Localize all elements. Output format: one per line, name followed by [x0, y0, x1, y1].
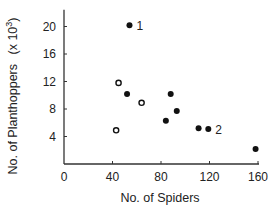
y-axis-title: No. of Planthoppers (x 103) [4, 18, 20, 175]
x-tick-label: 40 [106, 170, 120, 184]
filled-data-point [174, 108, 180, 114]
x-tick-label: 80 [154, 170, 168, 184]
open-data-point [139, 100, 144, 105]
y-axis-title-unit: (x 10 [6, 27, 20, 55]
filled-data-point [163, 118, 169, 124]
y-tick-label: 20 [43, 20, 57, 34]
data-points: 12 [114, 19, 259, 152]
y-tick-label: 4 [49, 130, 56, 144]
x-tick-label: 120 [199, 170, 219, 184]
filled-data-point [205, 126, 211, 132]
y-tick-label: 16 [43, 47, 57, 61]
y-tick-label: 12 [43, 75, 57, 89]
x-axis-title: No. of Spiders [120, 191, 199, 205]
point-label: 1 [136, 19, 143, 33]
axes: 4812162004080120160 [43, 10, 269, 184]
open-data-point [116, 80, 121, 85]
y-axis-title-close: ) [6, 18, 20, 22]
open-data-point [114, 128, 119, 133]
filled-data-point [126, 22, 132, 28]
filled-data-point [253, 146, 259, 152]
x-tick-label: 160 [248, 170, 268, 184]
y-tick-label: 8 [49, 102, 56, 116]
y-axis-title-main: No. of Planthoppers [6, 64, 20, 175]
point-label: 2 [215, 123, 222, 137]
filled-data-point [168, 91, 174, 97]
x-tick-label: 0 [61, 170, 68, 184]
scatter-chart: 4812162004080120160 12 No. of Spiders No… [0, 0, 278, 213]
filled-data-point [124, 91, 130, 97]
filled-data-point [196, 125, 202, 131]
